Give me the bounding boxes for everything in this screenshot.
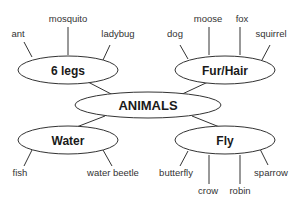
node-fur-hair: Fur/Hair	[175, 56, 275, 84]
leaf-robin: robin	[229, 185, 250, 196]
link-water-waterbeetle	[103, 150, 112, 166]
leaf-crow: crow	[198, 185, 218, 196]
node-6-legs: 6 legs	[18, 56, 118, 84]
node-water-label: Water	[52, 134, 85, 148]
link-6legs-ant	[24, 42, 32, 57]
center-label: ANIMALS	[118, 98, 178, 113]
link-fly-butterfly	[180, 151, 188, 166]
leaf-dog: dog	[167, 28, 183, 39]
leaf-water-beetle: water beetle	[86, 167, 139, 178]
link-fly-sparrow	[260, 149, 268, 165]
node-fly: Fly	[175, 126, 275, 154]
node-fur-hair-label: Fur/Hair	[202, 64, 248, 78]
leaf-ant: ant	[11, 28, 25, 39]
node-center-animals: ANIMALS	[75, 92, 221, 118]
node-fly-label: Fly	[216, 134, 234, 148]
leaf-ladybug: ladybug	[101, 28, 134, 39]
leaf-butterfly: butterfly	[159, 167, 193, 178]
leaf-moose: moose	[194, 13, 223, 24]
concept-map: 6 legs Fur/Hair Water Fly ANIMALS ant mo…	[0, 0, 296, 204]
leaf-sparrow: sparrow	[254, 167, 288, 178]
node-water: Water	[18, 126, 118, 154]
leaf-squirrel: squirrel	[255, 28, 286, 39]
link-6legs-ladybug	[103, 45, 110, 60]
leaf-fish: fish	[13, 167, 28, 178]
link-water-fish	[24, 150, 32, 166]
link-fur-dog	[180, 45, 188, 59]
leaf-mosquito: mosquito	[49, 13, 88, 24]
node-6-legs-label: 6 legs	[51, 64, 85, 78]
link-fur-squirrel	[262, 45, 270, 60]
leaf-fox: fox	[236, 13, 249, 24]
